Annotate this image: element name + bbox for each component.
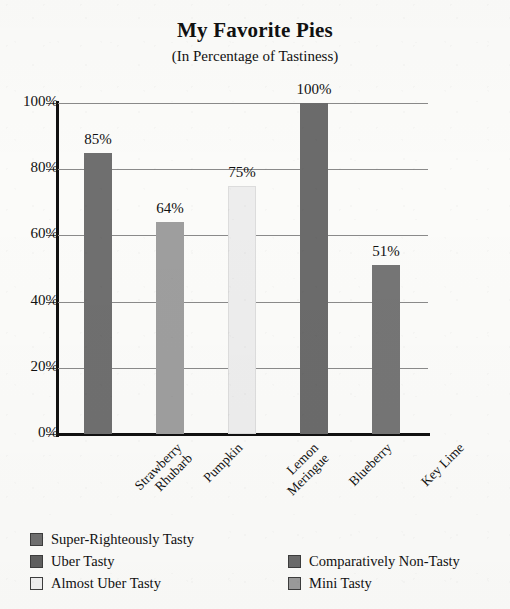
plot-area bbox=[58, 103, 428, 434]
chart-subtitle: (In Percentage of Tastiness) bbox=[0, 48, 510, 65]
bar bbox=[372, 265, 400, 434]
legend-item-label: Uber Tasty bbox=[51, 553, 115, 570]
x-tick-label-line: Blueberry bbox=[346, 440, 395, 489]
x-tick-label-line: Key Lime bbox=[418, 440, 467, 489]
legend-item[interactable]: Uber Tasty bbox=[30, 553, 115, 570]
chart-legend: Super-Righteously TastyUber TastyAlmost … bbox=[0, 531, 510, 603]
legend-item-label: Super-Righteously Tasty bbox=[51, 531, 194, 548]
x-tick-label: StrawberryRhubarb bbox=[132, 440, 196, 504]
legend-item-label: Almost Uber Tasty bbox=[51, 575, 161, 592]
bar-value-label: 64% bbox=[140, 200, 200, 217]
legend-item[interactable]: Mini Tasty bbox=[288, 575, 372, 592]
chart-page: My Favorite Pies (In Percentage of Tasti… bbox=[0, 0, 510, 609]
legend-item-label: Mini Tasty bbox=[309, 575, 372, 592]
x-tick-label: Pumpkin bbox=[200, 440, 245, 485]
bar bbox=[228, 186, 256, 434]
bar bbox=[300, 103, 328, 434]
bar-value-label: 51% bbox=[356, 243, 416, 260]
x-tick-label: LemonMeringue bbox=[273, 440, 331, 498]
legend-swatch-icon bbox=[30, 533, 43, 546]
y-tick-label: 0% bbox=[0, 424, 58, 441]
bar bbox=[156, 222, 184, 434]
bar-value-label: 75% bbox=[212, 164, 272, 181]
legend-item-label: Comparatively Non-Tasty bbox=[309, 553, 460, 570]
gridline bbox=[58, 103, 428, 104]
chart-title: My Favorite Pies bbox=[0, 18, 510, 43]
y-tick-label: 80% bbox=[0, 159, 58, 176]
legend-swatch-icon bbox=[30, 555, 43, 568]
x-tick-label: Blueberry bbox=[346, 440, 395, 489]
bar-value-label: 100% bbox=[284, 81, 344, 98]
bar bbox=[84, 153, 112, 434]
legend-item[interactable]: Comparatively Non-Tasty bbox=[288, 553, 460, 570]
x-tick-label-line: Pumpkin bbox=[200, 440, 245, 485]
y-tick-label: 20% bbox=[0, 358, 58, 375]
x-tick-label: Key Lime bbox=[418, 440, 467, 489]
legend-swatch-icon bbox=[288, 577, 301, 590]
bar-value-label: 85% bbox=[68, 131, 128, 148]
y-tick-label: 60% bbox=[0, 225, 58, 242]
legend-swatch-icon bbox=[288, 555, 301, 568]
legend-swatch-icon bbox=[30, 577, 43, 590]
y-tick-label: 100% bbox=[0, 93, 58, 110]
y-tick-label: 40% bbox=[0, 292, 58, 309]
legend-item[interactable]: Almost Uber Tasty bbox=[30, 575, 161, 592]
legend-item[interactable]: Super-Righteously Tasty bbox=[30, 531, 194, 548]
